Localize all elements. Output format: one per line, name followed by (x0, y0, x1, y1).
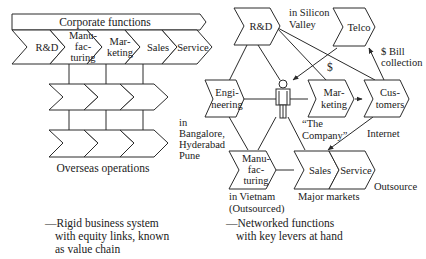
dollar-label: $ (327, 61, 333, 73)
chain-label-manufacturing-1: Manu- (69, 30, 97, 41)
node-rnd-label: R&D (250, 21, 273, 32)
overseas-operations-label: Overseas operations (57, 162, 150, 175)
chain-label-marketing-1: Mar- (110, 36, 131, 47)
right-caption-1: —Networked functions (225, 217, 335, 229)
bill-collection-label-1: $ Bill (381, 46, 405, 57)
right-caption-2: with key levers at hand (236, 230, 343, 243)
node-service-label: Service (340, 165, 372, 176)
silicon-valley-label-1: in Silicon (289, 7, 330, 18)
bill-collection-label-2: collection (381, 57, 423, 68)
left-caption-3: as value chain (55, 243, 120, 255)
diagram-canvas: Corporate functions R&D Manu- fac- turin… (0, 0, 426, 259)
node-marketing-label-1: Mar- (324, 87, 345, 98)
chain-label-manufacturing-3: turing (70, 52, 96, 63)
node-customers-label-1: Cus- (380, 87, 400, 98)
bangalore-label-2: Bangalore, (179, 128, 225, 139)
chain-label-manufacturing-2: fac- (75, 41, 92, 52)
chain-label-rnd: R&D (36, 42, 59, 53)
internet-label: Internet (367, 128, 400, 139)
middle-chain-row (49, 84, 168, 110)
major-markets-label: Major markets (298, 191, 360, 202)
node-manufacturing-label-2: fac- (248, 164, 265, 175)
bangalore-label-4: Pune (179, 150, 200, 161)
node-engineering-label-1: Engi- (215, 87, 239, 98)
node-manufacturing-label-1: Manu- (242, 153, 270, 164)
chain-label-sales: Sales (147, 42, 169, 53)
node-engineering-label-2: neering (211, 99, 243, 110)
vietnam-label-2: (Outsourced) (229, 203, 285, 215)
silicon-valley-label-2: Valley (289, 19, 317, 30)
person-icon (276, 80, 290, 118)
corporate-functions-label: Corporate functions (59, 16, 151, 29)
bangalore-label-1: in (179, 117, 188, 128)
node-telco-label: Telco (347, 22, 370, 33)
chain-label-service: Service (177, 42, 209, 53)
overseas-chain-row (49, 130, 168, 157)
outsource-label: Outsource (374, 181, 417, 192)
company-label-1: “The (302, 118, 323, 129)
left-caption-2: with equity links, known (55, 230, 170, 243)
company-label-2: Company” (302, 130, 348, 141)
node-sales-label: Sales (309, 165, 331, 176)
bangalore-label-3: Hyderabad (179, 139, 226, 150)
node-manufacturing-label-3: turing (243, 175, 269, 186)
vietnam-label-1: in Vietnam (229, 191, 275, 202)
node-marketing-label-2: keting (321, 99, 348, 110)
chain-label-marketing-2: keting (107, 47, 134, 58)
network-diagram: R&D Telco Engi- neering Mar- keting Cus-… (179, 7, 423, 243)
node-customers-label-2: tomers (376, 99, 405, 110)
network-links (228, 27, 384, 170)
left-caption-1: —Rigid business system (44, 217, 159, 230)
